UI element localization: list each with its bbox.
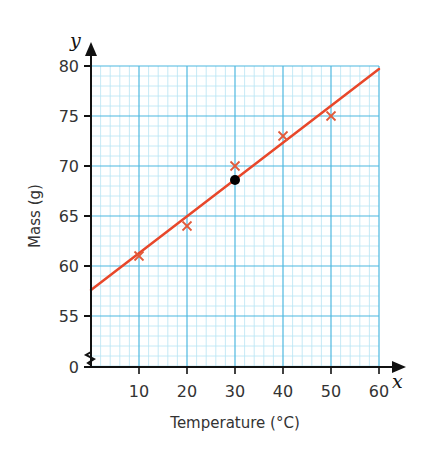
y-tick-label: 75: [59, 107, 79, 126]
y-axis-arrow-icon: [85, 42, 97, 56]
y-tick-label: 60: [59, 257, 79, 276]
x-axis-variable: x: [392, 370, 403, 392]
y-axis-variable: y: [69, 29, 81, 51]
x-tick-label: 40: [273, 382, 293, 401]
x-axis-title: Temperature (°C): [169, 414, 299, 432]
x-tick-label: 60: [369, 382, 389, 401]
y-tick-label: 70: [59, 157, 79, 176]
mean-point-marker: [230, 175, 240, 185]
x-tick-label: 30: [225, 382, 245, 401]
y-tick-label: 55: [59, 307, 79, 326]
y-tick-labels: 0556065707580: [59, 57, 79, 377]
y-tick-label: 80: [59, 57, 79, 76]
y-tick-label: 0: [69, 358, 79, 377]
grid-major: [91, 66, 379, 367]
x-tick-label: 10: [129, 382, 149, 401]
y-tick-label: 65: [59, 207, 79, 226]
chart: 0556065707580 102030405060 Mass (g) Temp…: [0, 0, 435, 468]
x-tick-labels: 102030405060: [129, 382, 389, 401]
x-tick-label: 50: [321, 382, 341, 401]
y-axis-title: Mass (g): [26, 184, 44, 248]
x-tick-label: 20: [177, 382, 197, 401]
